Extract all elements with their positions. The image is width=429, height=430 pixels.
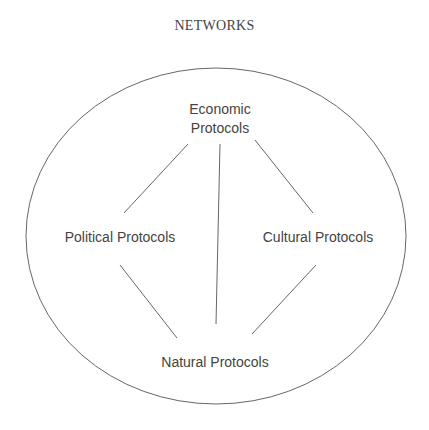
node-political-protocols: Political Protocols <box>50 229 190 245</box>
edge-economic-political <box>124 144 188 213</box>
node-economic-line2: Protocols <box>168 119 272 138</box>
node-cultural-protocols: Cultural Protocols <box>250 229 386 245</box>
edge-political-natural <box>120 265 177 338</box>
node-natural-protocols: Natural Protocols <box>150 354 280 370</box>
edge-economic-cultural <box>255 140 313 213</box>
edge-economic-natural <box>216 144 220 324</box>
node-economic-protocols: Economic Protocols <box>168 100 272 138</box>
node-economic-line1: Economic <box>168 100 272 119</box>
edge-cultural-natural <box>252 265 316 334</box>
